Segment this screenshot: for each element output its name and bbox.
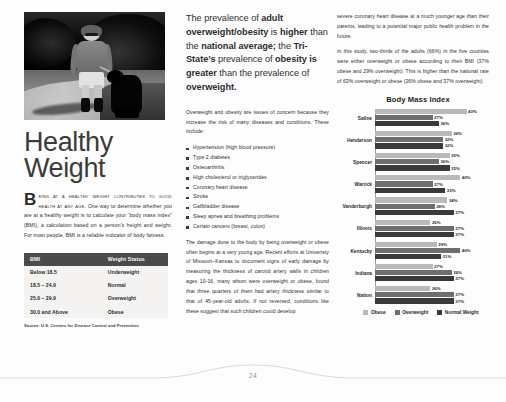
chart-bar-value: 26%	[432, 286, 441, 291]
chart-bar	[375, 210, 454, 215]
chart-bar	[375, 232, 454, 237]
chart-bar	[375, 220, 430, 225]
chart-bar-row: 30%	[375, 159, 489, 164]
table-cell-bmi: 18.5 – 24.9	[24, 279, 102, 292]
chart-bar	[375, 159, 439, 164]
chart-category-label: Illinois	[337, 226, 372, 231]
list-item: High cholesterol or triglycerides	[186, 173, 329, 183]
chart-category-label: Saline	[337, 115, 372, 120]
list-item: Osteoarthritis	[186, 163, 329, 173]
middle-paragraph: The damage done to the body by being ove…	[186, 238, 329, 317]
chart-category-label: Henderson	[337, 137, 372, 142]
chart-bar-row: 37%	[375, 298, 489, 303]
chart-bar	[375, 292, 454, 297]
chart-bar-value: 27%	[434, 115, 443, 120]
chart-bar-value: 43%	[468, 109, 477, 114]
chart-bar-row: 33%	[375, 188, 489, 193]
chart-group: Kentucky29%40%31%	[375, 242, 489, 260]
list-item: Certain cancers (breast, colon)	[186, 222, 329, 232]
photo-woman-walking-dog	[24, 12, 165, 120]
pq-b2: higher	[280, 27, 308, 37]
chart-bar-row: 26%	[375, 286, 489, 291]
chart-bar	[375, 175, 460, 180]
chart-bar	[375, 121, 439, 126]
chart-bar	[375, 276, 454, 281]
list-item: Coronary heart disease	[186, 183, 329, 193]
chart-bar-value: 33%	[447, 188, 456, 193]
left-column: Healthy Weight Being at a healthy weight…	[24, 12, 172, 328]
chart-bar-row: 37%	[375, 226, 489, 231]
legend-item: Overweight	[395, 310, 429, 315]
chart-bar-value: 37%	[455, 226, 464, 231]
chart-bar-row: 37%	[375, 292, 489, 297]
chart-bar-value: 30%	[440, 121, 449, 126]
chart-bar-value: 27%	[434, 264, 443, 269]
chart-bar	[375, 270, 452, 275]
chart-bar-value: 40%	[462, 175, 471, 180]
chart-bar-value: 32%	[445, 143, 454, 148]
chart-bar-value: 37%	[455, 210, 464, 215]
table-cell-status: Obese	[102, 305, 168, 318]
pq-b6: overweight.	[186, 82, 237, 92]
chart-bar	[375, 181, 433, 186]
chart-bar-value: 37%	[455, 232, 464, 237]
right-column: severe coronary heart disease at a much …	[337, 12, 489, 315]
bmi-chart: Body Mass Index Saline43%27%30%Henderson…	[337, 95, 489, 315]
chart-category-label: Indiana	[337, 270, 372, 275]
table-header-row: BMI Weight Status	[24, 253, 168, 266]
chart-bar	[375, 115, 433, 120]
chart-bar-value: 34%	[449, 198, 458, 203]
bmi-table: BMI Weight Status Below 18.5 Underweight…	[24, 253, 168, 319]
chart-group: Indiana27%36%37%	[375, 264, 489, 282]
chart-bar	[375, 286, 430, 291]
chart-legend: ObeseOverweightNormal Weight	[337, 310, 489, 315]
chart-bar-row: 34%	[375, 197, 489, 202]
chart-bar	[375, 248, 460, 253]
chart-bar	[375, 264, 433, 269]
chart-bar-value: 26%	[432, 220, 441, 225]
chart-bar-row: 32%	[375, 137, 489, 142]
chart-bar-value: 35%	[451, 153, 460, 158]
pull-quote: The prevalence of adult overweight/obesi…	[186, 12, 329, 95]
middle-column: The prevalence of adult overweight/obesi…	[186, 12, 329, 322]
chart-bar-row: 31%	[375, 254, 489, 259]
legend-item: Normal Weight	[437, 310, 478, 315]
chart-bar	[375, 131, 452, 136]
list-item: Type 2 diabetes	[186, 153, 329, 163]
table-cell-bmi: 25.0 – 29.9	[24, 292, 102, 305]
risk-conditions-list: Hypertension (high blood pressure) Type …	[186, 143, 329, 231]
chart-bar-value: 37%	[455, 276, 464, 281]
table-row: 30.0 and Above Obese	[24, 305, 168, 318]
chart-bar-value: 35%	[451, 166, 460, 171]
pq-t6: than the prevalence of	[217, 68, 309, 78]
chart-bar-value: 40%	[462, 248, 471, 253]
chart-title: Body Mass Index	[337, 95, 489, 104]
chart-bar-value: 36%	[453, 131, 462, 136]
table-cell-status: Underweight	[102, 266, 168, 279]
legend-swatch	[395, 310, 400, 315]
chart-bar-row: 32%	[375, 143, 489, 148]
chart-bar-value: 31%	[443, 254, 452, 259]
chart-bar-row: 40%	[375, 175, 489, 180]
chart-bar	[375, 143, 443, 148]
chart-group: Saline43%27%30%	[375, 109, 489, 127]
chart-bar-row: 37%	[375, 276, 489, 281]
magazine-page: Healthy Weight Being at a healthy weight…	[0, 0, 506, 402]
chart-bar	[375, 197, 447, 202]
chart-group: Nation26%37%37%	[375, 286, 489, 304]
chart-bar-row: 37%	[375, 232, 489, 237]
chart-bar-row: 27%	[375, 264, 489, 269]
chart-bar-row: 43%	[375, 109, 489, 114]
chart-bar-row: 40%	[375, 248, 489, 253]
right-body: severe coronary heart disease at a much …	[337, 12, 489, 87]
chart-bar	[375, 165, 450, 170]
table-header-bmi: BMI	[24, 253, 102, 266]
chart-category-label: Vanderburgh	[337, 204, 372, 209]
chart-category-label: Nation	[337, 292, 372, 297]
table-row: Below 18.5 Underweight	[24, 266, 168, 279]
list-item: Stroke	[186, 192, 329, 202]
chart-bar-value: 29%	[438, 242, 447, 247]
chart-bar	[375, 153, 450, 158]
chart-group: Spencer35%30%35%	[375, 153, 489, 171]
drop-cap: B	[24, 193, 36, 206]
